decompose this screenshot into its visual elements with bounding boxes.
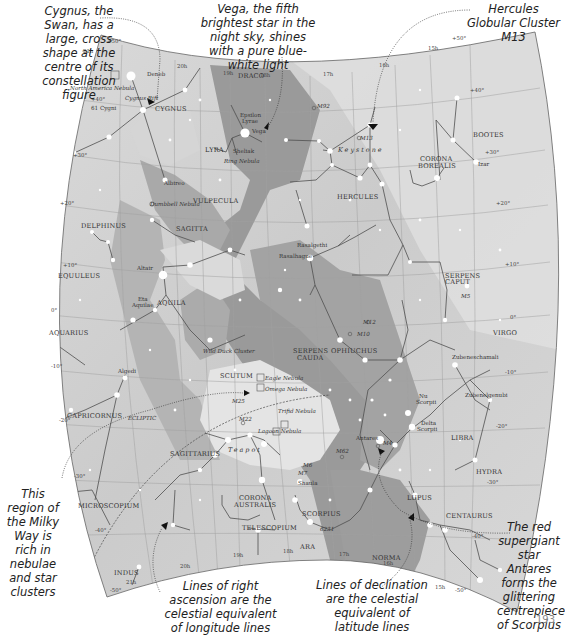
star-label: Zubeneschamali <box>452 354 499 360</box>
callout-milkyway: This region of the Milky Way is rich in … <box>2 487 64 599</box>
asterism-label: Keystone <box>337 146 384 154</box>
constellation-label: SAGITTARIUS <box>170 450 221 458</box>
star-label: Lyrae <box>242 118 259 125</box>
deep-sky-label: Trifid Nebula <box>278 408 316 415</box>
constellation-label: AQUILA <box>156 299 186 307</box>
constellation-label: AQUARIUS <box>48 329 89 337</box>
dec-label: +10° <box>63 262 77 268</box>
constellation-label: CYGNUS <box>155 105 187 113</box>
dec-label: -10° <box>51 363 63 369</box>
dec-label: +20° <box>496 200 510 206</box>
constellation-label: SCUTUM <box>220 372 253 380</box>
deep-sky-label: M5 <box>460 293 471 299</box>
ra-label: 19h <box>233 552 244 558</box>
deep-sky-label: Eagle Nebula <box>264 375 303 382</box>
constellation-label: CAUDA <box>297 354 323 362</box>
dec-label: -50° <box>110 587 122 593</box>
constellation-label: CENTAURUS <box>446 512 493 520</box>
star-label: Zubenelgenubi <box>465 392 508 399</box>
misc-label: Cygnus Rift <box>125 95 159 102</box>
deep-sky-label: M92 <box>316 103 330 109</box>
misc-label: ECLIPTIC <box>127 415 157 421</box>
constellation-label: BOREALIS <box>418 162 456 170</box>
star-label: Deneb <box>147 71 166 77</box>
ra-label: 16h <box>379 62 390 68</box>
star-label: 61 Cygni <box>91 105 117 112</box>
star-label: Shaula <box>298 480 318 486</box>
deep-sky-label: Ring Nebula <box>223 158 259 165</box>
constellation-label: HYDRA <box>476 468 502 476</box>
constellation-label: AUSTRALIS <box>233 501 277 509</box>
dec-label: -40° <box>95 527 107 533</box>
deep-sky-label: M25 <box>231 398 245 404</box>
deep-sky-label: Dumbbell Nebula <box>149 201 200 207</box>
star-label: Antares <box>355 435 378 441</box>
constellation-label: LIBRA <box>451 434 474 442</box>
dec-label: -40° <box>472 533 484 539</box>
constellation-label: LYRA <box>205 146 224 154</box>
deep-sky-label: M12 <box>362 319 376 325</box>
constellation-label: OPHIUCHUS <box>331 347 378 355</box>
dec-label: -50° <box>455 587 467 593</box>
constellation-label: SCORPIUS <box>302 510 341 518</box>
deep-sky-label: M7 <box>297 470 308 476</box>
constellation-label: BOOTES <box>473 131 504 139</box>
deep-sky-label: M6 <box>302 462 313 468</box>
dec-label: +30° <box>73 152 87 158</box>
ra-label: 17h <box>323 71 334 77</box>
star-label: Sheliak <box>233 148 255 154</box>
star-label: Altair <box>136 265 153 271</box>
dec-label: +50° <box>452 35 466 41</box>
dec-label: -30° <box>487 479 499 485</box>
star-label: Vega <box>251 128 266 135</box>
deep-sky-label: Omega Nebula <box>265 386 307 393</box>
constellation-label: SAGITTA <box>176 225 208 233</box>
callout-m13: Hercules Globular Cluster M13 <box>466 2 561 44</box>
deep-sky-label: M10 <box>356 331 370 337</box>
ra-label: 20h <box>177 63 188 69</box>
deep-sky-label: M4 <box>382 440 393 446</box>
constellation-label: VIRGO <box>492 329 517 337</box>
dec-label: 0° <box>510 314 516 320</box>
star-label: Rasalgethi <box>297 242 327 249</box>
constellation-label: ARA <box>299 543 315 551</box>
star-label: Scorpii <box>416 399 436 406</box>
callout-vega: Vega, the fifth brightest star in the ni… <box>198 2 318 72</box>
callout-dec: Lines of declination are the celestial e… <box>312 578 432 634</box>
constellation-label: DRACO <box>238 72 265 80</box>
constellation-label: HERCULES <box>337 193 379 201</box>
ra-label: 15h <box>428 45 439 51</box>
constellation-label: DELPHINUS <box>81 222 126 230</box>
deep-sky-label: Wild Duck Cluster <box>203 348 255 354</box>
dec-label: +20° <box>60 200 74 206</box>
page-number: 193 <box>536 614 555 625</box>
star-label: Rasalhague <box>279 253 313 260</box>
star-label: Izar <box>478 161 489 167</box>
deep-sky-label: M22 <box>238 416 252 422</box>
ra-label: 21h <box>126 579 137 585</box>
ra-label: 17h <box>339 551 350 557</box>
dec-label: -20° <box>496 423 508 429</box>
deep-sky-label: M13 <box>359 135 373 141</box>
constellation-label: CAPRICORNUS <box>67 412 123 420</box>
asterism-label: Teapot <box>228 446 262 454</box>
dec-label: +10° <box>505 261 519 267</box>
constellation-label: INDUS <box>114 569 139 577</box>
star-label: Aquilae <box>131 302 154 309</box>
dec-label: +40° <box>470 87 484 93</box>
dec-label: -10° <box>505 369 517 375</box>
star-label: Algedi <box>117 368 136 375</box>
dec-label: -30° <box>74 473 86 479</box>
dec-label: 0° <box>51 307 57 313</box>
constellation-label: MICROSCOPIUM <box>78 502 140 510</box>
dec-label: +30° <box>485 149 499 155</box>
constellation-label: LUPUS <box>407 494 432 502</box>
star-label: Scorpii <box>417 426 437 433</box>
ra-label: 15h <box>435 584 446 590</box>
deep-sky-label: Lagoon Nebula <box>257 428 301 435</box>
deep-sky-label: 6231 <box>320 526 334 532</box>
constellation-label: CAPUT <box>445 278 470 286</box>
callout-ra: Lines of right ascension are the celesti… <box>158 579 283 635</box>
ra-label: 20h <box>180 563 191 569</box>
ra-label: 18h <box>283 548 294 554</box>
